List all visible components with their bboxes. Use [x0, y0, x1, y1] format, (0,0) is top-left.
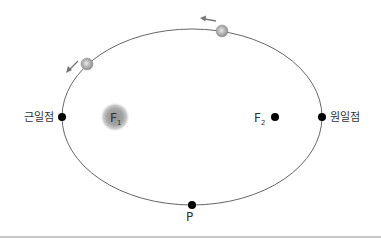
- aphelion-marker: 원일점: [318, 110, 360, 124]
- focus-2: F2: [254, 111, 279, 127]
- aphelion-point: [318, 113, 326, 121]
- arrow-icon: [200, 16, 216, 22]
- focus-2-label: F2: [254, 111, 265, 127]
- planet-icon: [216, 25, 228, 37]
- planet-icon: [81, 58, 93, 70]
- perihelion-marker: 근일점: [24, 110, 66, 124]
- orbit-diagram: F1 F2 근일점 원일점 P: [0, 0, 381, 239]
- planet-top: [200, 16, 228, 38]
- focus-2-point: [271, 113, 279, 121]
- perihelion-point: [58, 113, 66, 121]
- point-p-label: P: [186, 210, 193, 224]
- aphelion-label: 원일점: [330, 110, 360, 124]
- point-p: [188, 201, 196, 209]
- planet-left: [66, 58, 93, 73]
- focus-1-sun: F1: [100, 102, 130, 132]
- arrow-icon: [66, 61, 78, 73]
- bottom-divider: [0, 236, 381, 238]
- perihelion-label: 근일점: [24, 110, 54, 124]
